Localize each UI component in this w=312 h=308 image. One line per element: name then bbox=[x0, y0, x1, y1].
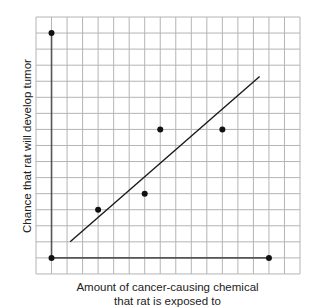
scatter-chart bbox=[0, 0, 312, 308]
data-point bbox=[95, 207, 101, 213]
data-point bbox=[219, 126, 225, 132]
x-axis-label-line-2: that rat is exposed to bbox=[60, 295, 275, 308]
data-point bbox=[142, 191, 148, 197]
axis-endpoint-dot bbox=[49, 255, 55, 261]
grid bbox=[36, 17, 300, 274]
data-point bbox=[157, 126, 163, 132]
x-axis-label-line-1: Amount of cancer-causing chemical bbox=[60, 281, 275, 295]
axis-endpoint-dot bbox=[49, 30, 55, 36]
y-axis-label: Chance that rat will develop tumor bbox=[21, 59, 33, 233]
axis-endpoint-dot bbox=[266, 255, 272, 261]
x-axis-label: Amount of cancer-causing chemical that r… bbox=[60, 281, 275, 308]
